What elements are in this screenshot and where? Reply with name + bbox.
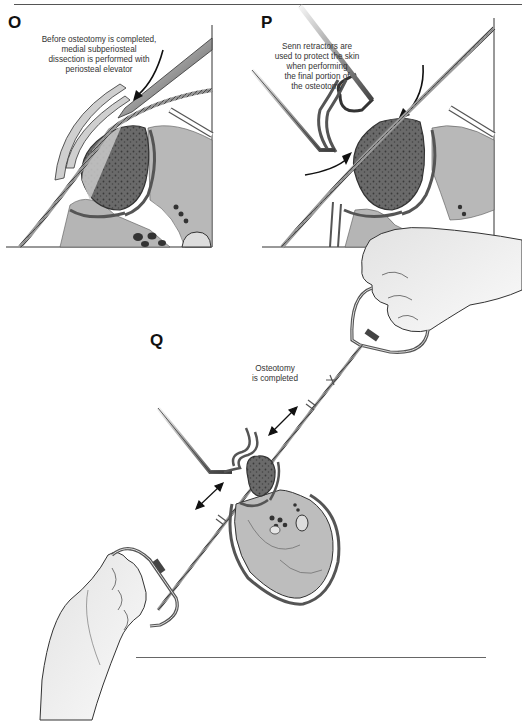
- panel-label-p: P: [261, 13, 272, 33]
- panel-label-q: Q: [150, 331, 163, 351]
- caption-panel-o: Before osteotomy is completed, medial su…: [36, 35, 162, 75]
- caption-panel-p: Senn retractors are used to protect the …: [268, 42, 366, 92]
- footer-rule: [136, 657, 486, 658]
- panel-label-o: O: [8, 13, 21, 33]
- caption-panel-q: Osteotomy is completed: [245, 364, 305, 384]
- panel-q-artwork: [40, 228, 522, 721]
